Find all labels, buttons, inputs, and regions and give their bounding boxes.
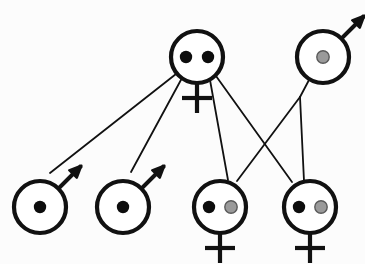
inheritance-link [131,78,182,172]
allele-marker-gray [315,201,327,213]
inheritance-link [300,80,309,97]
pedigree-canvas [0,0,365,264]
individual-symbol-female[interactable] [194,181,246,263]
inheritance-link [210,80,228,180]
allele-marker-black [202,51,214,63]
inheritance-links-layer [50,74,309,182]
allele-marker-black [34,201,46,213]
individual-circle[interactable] [171,31,223,83]
individuals-layer [14,16,364,263]
allele-marker-black [180,51,192,63]
allele-marker-gray [317,51,329,63]
allele-marker-black [293,201,305,213]
individual-symbol-female[interactable] [171,31,223,113]
individual-symbol-female[interactable] [284,181,336,263]
pedigree-diagram [0,0,365,264]
inheritance-link [216,76,292,182]
inheritance-link [237,97,300,181]
individual-circle[interactable] [284,181,336,233]
allele-marker-black [203,201,215,213]
individual-symbol-male[interactable] [297,16,364,83]
individual-symbol-male[interactable] [14,166,81,233]
allele-marker-black [117,201,129,213]
individual-circle[interactable] [194,181,246,233]
allele-marker-gray [225,201,237,213]
individual-symbol-male[interactable] [97,166,164,233]
inheritance-link [300,97,304,181]
